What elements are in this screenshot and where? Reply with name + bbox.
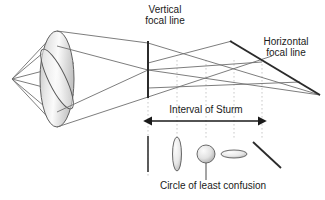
vertical-focal-line-label-line1: Vertical	[122, 4, 208, 15]
diagram-canvas	[0, 0, 325, 200]
astigmatic-lens	[35, 31, 79, 127]
interval-of-sturm-label: Interval of Sturm	[148, 104, 264, 115]
ray-envelope-bot	[148, 82, 300, 88]
beam-cross-sections	[148, 136, 281, 172]
cross-section-diagonal-line	[253, 142, 281, 168]
cross-section-tall-ellipse	[173, 137, 182, 171]
cross-section-flat-ellipse	[221, 150, 247, 158]
astigmatism-diagram: Vertical focal line Horizontal focal lin…	[0, 0, 325, 200]
vertical-focal-line-label: Vertical focal line	[122, 4, 208, 26]
ray-envelope-top	[148, 41, 232, 63]
horizontal-focal-line-label-line2: focal line	[248, 47, 324, 58]
ray-top-to-vertical-line	[57, 31, 148, 43]
cross-section-circle-of-least-confusion	[197, 145, 215, 163]
ray-cross-lower	[148, 62, 262, 70]
horizontal-focal-line-label-line1: Horizontal	[248, 36, 324, 47]
circle-of-least-confusion-label: Circle of least confusion	[128, 180, 298, 191]
vertical-focal-line-label-line2: focal line	[122, 15, 208, 26]
horizontal-focal-line-label: Horizontal focal line	[248, 36, 324, 58]
